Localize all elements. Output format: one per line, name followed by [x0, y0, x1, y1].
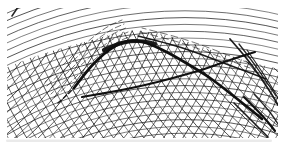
envelope-of-circles-figure [0, 0, 284, 150]
arcs-canvas [0, 0, 284, 150]
scan-smear [6, 140, 272, 142]
